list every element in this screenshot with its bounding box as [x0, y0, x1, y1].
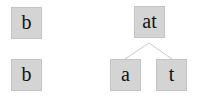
- node-label: at: [142, 11, 156, 31]
- node-label: a: [121, 64, 130, 84]
- node-label: b: [22, 12, 32, 32]
- node-label: t: [169, 64, 175, 84]
- node-label: b: [22, 64, 32, 84]
- tree-root-node: at: [134, 6, 165, 38]
- tree-child-node-t: t: [156, 59, 187, 91]
- edge-root-to-a: [125, 43, 149, 59]
- node-b-bottom: b: [11, 59, 42, 91]
- edge-root-to-t: [149, 43, 172, 59]
- node-b-top: b: [11, 7, 42, 39]
- tree-child-node-a: a: [110, 59, 141, 91]
